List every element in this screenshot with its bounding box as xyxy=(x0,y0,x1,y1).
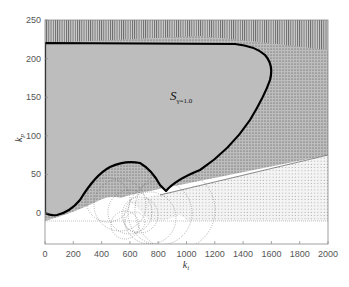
x-tick-label: 0 xyxy=(42,249,47,259)
x-tick-label: 2000 xyxy=(318,249,338,259)
x-tick-label: 1200 xyxy=(205,249,225,259)
y-tick-label: 50 xyxy=(31,169,41,179)
chart: Sγ=1.0 020040060080010001200140016001800… xyxy=(0,0,349,287)
y-tick-label: 200 xyxy=(26,54,41,64)
x-tick-label: 800 xyxy=(151,249,166,259)
y-tick-label: 0 xyxy=(36,208,41,218)
plot-area: Sγ=1.0 xyxy=(45,20,328,250)
x-tick-label: 1800 xyxy=(290,249,310,259)
y-tick-label: 150 xyxy=(26,92,41,102)
y-tick-label: 250 xyxy=(26,15,41,25)
x-axis-title: ki xyxy=(183,259,189,272)
y-axis-title: kp xyxy=(13,134,26,142)
x-tick-label: 600 xyxy=(122,249,137,259)
x-tick-label: 200 xyxy=(66,249,81,259)
x-tick-label: 1000 xyxy=(176,249,196,259)
x-tick-label: 1600 xyxy=(261,249,281,259)
x-tick-label: 400 xyxy=(94,249,109,259)
x-tick-label: 1400 xyxy=(233,249,253,259)
y-tick-label: 100 xyxy=(26,131,41,141)
